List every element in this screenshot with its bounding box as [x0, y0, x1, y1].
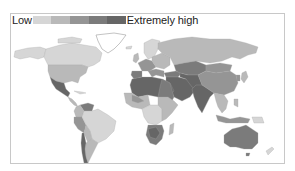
region-central-america[interactable] — [68, 97, 78, 107]
legend-bin-extremely-high — [107, 16, 126, 24]
legend-bin-low — [33, 16, 52, 24]
legend-high-label: Extremely high — [127, 14, 198, 26]
legend-bin-high — [89, 16, 108, 24]
region-arctic-islands[interactable] — [58, 37, 82, 43]
legend-low-label: Low — [12, 14, 32, 26]
region-papua[interactable] — [252, 117, 264, 123]
world-map — [10, 13, 285, 164]
region-alaska[interactable] — [14, 47, 46, 59]
region-philippines[interactable] — [234, 99, 238, 107]
legend-color-scale — [33, 16, 126, 24]
region-madagascar[interactable] — [169, 123, 174, 135]
region-new-zealand[interactable] — [266, 147, 274, 155]
region-southeast-asia[interactable] — [214, 93, 228, 113]
region-uk[interactable] — [133, 53, 139, 63]
region-russia[interactable] — [158, 37, 258, 65]
region-greenland[interactable] — [96, 33, 126, 53]
region-australia[interactable] — [224, 125, 258, 149]
map-legend: Low Extremely high — [12, 14, 198, 26]
region-central-africa[interactable] — [142, 105, 162, 125]
region-iceland[interactable] — [126, 46, 132, 49]
legend-bin-low-medium — [51, 16, 70, 24]
legend-bin-medium-high — [70, 16, 89, 24]
region-canada[interactable] — [44, 43, 102, 67]
region-tasmania[interactable] — [246, 153, 250, 156]
region-caribbean[interactable] — [74, 91, 86, 94]
region-japan[interactable] — [241, 71, 248, 83]
region-indonesia[interactable] — [216, 115, 250, 123]
